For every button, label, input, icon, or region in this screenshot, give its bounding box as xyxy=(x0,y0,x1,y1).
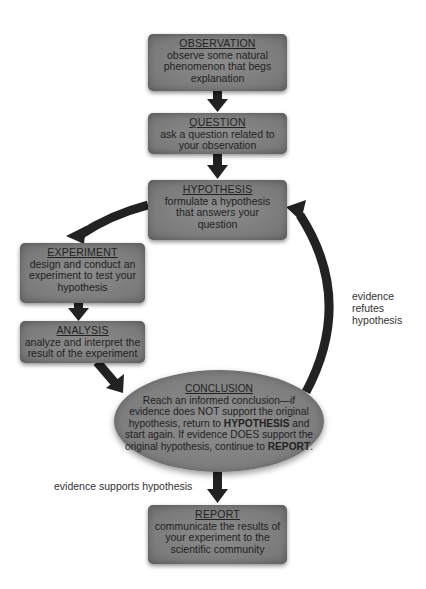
label-evidence-supports: evidence supports hypothesis xyxy=(54,480,224,492)
step-description: communicate the results of your experime… xyxy=(148,521,287,556)
step-description: ask a question related to your observati… xyxy=(148,129,287,152)
step-title: HYPOTHESIS xyxy=(148,184,287,196)
step-report: REPORT communicate the results of your e… xyxy=(148,505,287,564)
step-description: Reach an informed conclusion—if evidence… xyxy=(114,395,324,453)
step-title: CONCLUSION xyxy=(114,383,324,395)
step-description: analyze and interpret the result of the … xyxy=(20,337,145,360)
step-title: REPORT xyxy=(148,509,287,521)
step-description: design and conduct an experiment to test… xyxy=(20,259,145,294)
step-observation: OBSERVATION observe some natural phenome… xyxy=(148,34,287,91)
step-hypothesis: HYPOTHESIS formulate a hypothesis that a… xyxy=(148,180,287,240)
step-experiment: EXPERIMENT design and conduct an experim… xyxy=(20,243,145,303)
step-title: OBSERVATION xyxy=(148,38,287,50)
arrow-hypothesis-to-experiment xyxy=(66,205,148,244)
arrow-conclusion-to-hypothesis xyxy=(286,200,329,392)
step-analysis: ANALYSIS analyze and interpret the resul… xyxy=(20,321,145,363)
step-question: QUESTION ask a question related to your … xyxy=(148,113,287,154)
step-conclusion: CONCLUSION Reach an informed conclusion—… xyxy=(114,370,324,472)
step-title: QUESTION xyxy=(148,117,287,129)
step-title: EXPERIMENT xyxy=(20,247,145,259)
step-description: formulate a hypothesis that answers your… xyxy=(148,196,287,231)
step-description: observe some natural phenomenon that beg… xyxy=(148,50,287,85)
label-evidence-refutes: evidence refutes hypothesis xyxy=(352,290,422,326)
step-title: ANALYSIS xyxy=(20,325,145,337)
